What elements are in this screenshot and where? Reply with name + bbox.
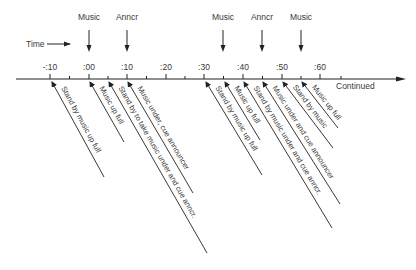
cue-arrow-icon xyxy=(128,82,193,193)
marker-label: Music xyxy=(212,12,235,22)
marker-label: Anncr xyxy=(251,12,273,22)
cue-arrow-icon xyxy=(52,82,104,177)
tick-label: :10 xyxy=(121,62,133,72)
cue-label: Stand by music up full xyxy=(59,85,103,155)
cue-label: Stand by to take music under and cue ann… xyxy=(116,84,199,219)
marker-label: Music xyxy=(78,12,101,22)
tick-label: :60 xyxy=(314,62,326,72)
marker-label: Anncr xyxy=(116,12,138,22)
timing-diagram: Time -:10:00:10:20:30:40:50:60 MusicAnnc… xyxy=(0,0,416,270)
tick-label: :40 xyxy=(237,62,249,72)
cue-item: Music under, cue announcer xyxy=(128,82,193,193)
cue-lines: Stand by music up fullMusic up fullStand… xyxy=(52,82,343,253)
tick-label: :00 xyxy=(83,62,95,72)
axis-arrow-icon xyxy=(396,77,406,82)
tick-label: :30 xyxy=(198,62,210,72)
top-markers: MusicAnncrMusicAnncrMusic xyxy=(78,12,313,52)
tick-label: :20 xyxy=(160,62,172,72)
continued-label: Continued xyxy=(336,81,375,91)
marker-label: Music xyxy=(290,12,313,22)
tick-label: -:10 xyxy=(43,62,58,72)
tick-label: :50 xyxy=(276,62,288,72)
cue-arrow-icon xyxy=(109,82,207,253)
cue-item: Stand by to take music under and cue ann… xyxy=(109,82,207,253)
cue-item: Stand by music up full xyxy=(52,82,104,177)
major-ticks: -:10:00:10:20:30:40:50:60 xyxy=(43,62,327,79)
cue-arrow-icon xyxy=(206,82,262,175)
time-label: Time xyxy=(26,39,45,49)
cue-item: Stand by music up full xyxy=(206,82,262,175)
